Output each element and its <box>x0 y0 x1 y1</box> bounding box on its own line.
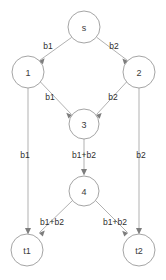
node-label-t2: t2 <box>135 246 143 256</box>
edge-3-to-4: b1+b2 <box>72 139 96 176</box>
arrowhead-3-4 <box>81 169 87 176</box>
node-3[interactable]: 3 <box>69 109 99 139</box>
node-s[interactable]: s <box>68 11 100 43</box>
edge-label-2-t2: b2 <box>136 150 146 160</box>
edge-label-s-1: b1 <box>43 41 53 51</box>
edge-2-to-3: b2 <box>96 82 127 119</box>
node-label-4: 4 <box>81 187 86 197</box>
edge-label-4-t2: b1+b2 <box>103 217 127 227</box>
edge-4-to-t1: b1+b2 <box>39 201 73 237</box>
edge-label-4-t1: b1+b2 <box>40 217 64 227</box>
edge-1-to-t1: b1 <box>20 88 31 235</box>
edge-1-to-3: b1 <box>41 82 73 119</box>
arrowhead-4-t1 <box>39 231 45 237</box>
node-t1[interactable]: t1 <box>11 234 43 266</box>
arrowhead-2-t2 <box>136 228 142 235</box>
node-label-t1: t1 <box>23 246 31 256</box>
node-t2[interactable]: t2 <box>123 234 155 266</box>
node-2[interactable]: 2 <box>123 56 155 88</box>
edge-s-to-1: b1 <box>39 38 72 65</box>
edge-2-to-t2: b2 <box>136 88 146 235</box>
diagram-canvas: b1 b2 b1 b2 <box>0 0 166 280</box>
edge-4-to-t2: b1+b2 <box>96 201 129 237</box>
arrowhead-1-t1 <box>25 228 31 235</box>
node-group: s 1 2 3 4 t1 <box>11 11 155 266</box>
node-label-2: 2 <box>136 68 141 78</box>
edge-label-1-t1: b1 <box>20 150 30 160</box>
edge-s-to-2: b2 <box>97 38 128 65</box>
node-label-s: s <box>82 23 87 33</box>
edge-label-1-3: b1 <box>45 92 55 102</box>
edge-label-2-3: b2 <box>108 92 118 102</box>
node-4[interactable]: 4 <box>69 176 99 206</box>
node-label-3: 3 <box>81 120 86 130</box>
node-label-1: 1 <box>25 68 30 78</box>
node-1[interactable]: 1 <box>12 56 44 88</box>
directed-graph: b1 b2 b1 b2 <box>0 0 166 280</box>
edge-label-3-4: b1+b2 <box>72 150 96 160</box>
edge-label-s-2: b2 <box>109 41 119 51</box>
